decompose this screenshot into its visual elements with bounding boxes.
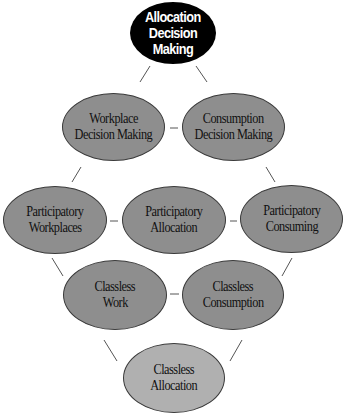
node-classless-allocation: Classless Allocation	[123, 343, 225, 413]
node-label-line2: Allocation	[150, 378, 197, 394]
connector-line	[196, 66, 207, 82]
node-classless-work: Classless Work	[63, 260, 167, 330]
node-classless-consumption: Classless Consumption	[182, 260, 284, 330]
connector-line	[104, 340, 117, 361]
node-label-line1: Classless	[154, 362, 195, 378]
node-label-line2: Work	[102, 295, 127, 311]
node-label-line1: Workplace	[89, 111, 138, 127]
node-label-line2: Decision Making	[136, 25, 209, 57]
node-participatory-consuming: Participatory Consuming	[240, 185, 343, 253]
connector-line	[266, 167, 275, 182]
node-label-line2: Consuming	[265, 219, 317, 235]
connector-line	[140, 66, 150, 82]
node-label-line1: Participatory	[263, 203, 320, 219]
node-label-line1: Participatory	[145, 204, 202, 220]
node-label-line1: Allocation	[145, 9, 201, 25]
node-workplace-decision-making: Workplace Decision Making	[62, 93, 165, 161]
connector-line	[52, 258, 63, 276]
node-participatory-allocation: Participatory Allocation	[122, 186, 226, 254]
connector-line	[72, 167, 81, 182]
node-label-line1: Consumption	[203, 111, 264, 127]
node-consumption-decision-making: Consumption Decision Making	[182, 93, 285, 161]
node-label-line2: Allocation	[150, 220, 197, 236]
node-label-line2: Decision Making	[195, 127, 273, 143]
node-label-line1: Participatory	[26, 204, 83, 220]
node-allocation-decision-making: Allocation Decision Making	[130, 2, 216, 64]
node-label-line2: Decision Making	[75, 127, 153, 143]
node-label-line1: Classless	[213, 279, 254, 295]
node-label-line1: Classless	[95, 279, 136, 295]
node-label-line2: Workplaces	[29, 220, 82, 236]
node-label-line2: Consumption	[203, 295, 264, 311]
connector-line	[282, 258, 292, 276]
connector-line	[230, 340, 242, 361]
node-participatory-workplaces: Participatory Workplaces	[3, 186, 107, 254]
